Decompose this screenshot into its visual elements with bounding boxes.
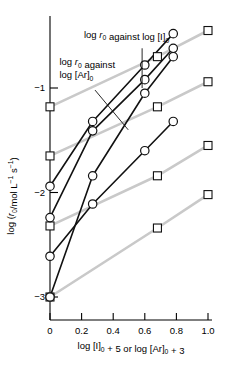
y-tick-group: −1−2−3 (34, 82, 58, 302)
data-point-circle (88, 200, 96, 208)
data-point-square (46, 152, 54, 160)
data-point-circle (46, 293, 54, 301)
x-tick-label-0.2: 0.2 (75, 325, 88, 336)
data-point-circle (46, 182, 54, 190)
markers-layer (46, 27, 212, 302)
data-point-square (204, 78, 212, 86)
data-point-square (153, 103, 161, 111)
data-point-square (46, 222, 54, 230)
x-tick-label-0.8: 0.8 (170, 325, 183, 336)
series-line (50, 145, 208, 225)
x-tick-label-0.4: 0.4 (107, 325, 120, 336)
data-point-circle (169, 44, 177, 52)
data-point-square (153, 53, 161, 61)
kinetics-log-log-plot: 00.20.40.60.81.0 −1−2−3 log r0 against l… (0, 0, 226, 366)
x-tick-group: 00.20.40.60.81.0 (47, 313, 214, 336)
data-point-square (204, 141, 212, 149)
y-tick-label--3: −3 (34, 291, 45, 302)
data-point-circle (88, 127, 96, 135)
data-point-square (153, 224, 161, 232)
y-axis-title: log (r0/mol L−1 s−1) (5, 157, 19, 234)
data-point-circle (141, 147, 149, 155)
y-tick-label--2: −2 (34, 187, 45, 198)
data-point-circle (88, 117, 96, 125)
annotation-layer: log r0 against log [I]0log r0 againstlog… (59, 29, 169, 130)
data-point-circle (46, 213, 54, 221)
series-line (50, 195, 208, 297)
data-point-square (153, 172, 161, 180)
data-point-circle (169, 52, 177, 60)
data-point-circle (88, 172, 96, 180)
data-point-square (204, 27, 212, 35)
data-point-circle (169, 117, 177, 125)
series-line (50, 121, 173, 256)
data-point-circle (46, 252, 54, 260)
y-tick-label--1: −1 (34, 82, 45, 93)
data-point-square (46, 103, 54, 111)
annotation-log-i0: log r0 against log [I]0 (84, 29, 169, 44)
data-point-circle (141, 89, 149, 97)
x-tick-label-0.6: 0.6 (138, 325, 151, 336)
x-tick-label-0: 0 (47, 325, 52, 336)
annotation-log-ar0-line1: log r0 against (59, 56, 115, 70)
x-tick-label-1.0: 1.0 (201, 325, 214, 336)
x-axis-title: log [I]0 + 5 or log [Ar]0 + 3 (78, 340, 185, 356)
data-point-circle (169, 29, 177, 37)
annotation-log-ar0-line2: log [Ar]0 (59, 69, 93, 82)
data-point-square (204, 191, 212, 199)
